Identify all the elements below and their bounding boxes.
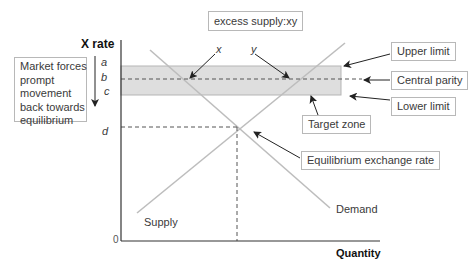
y-axis-label: X rate	[81, 38, 114, 50]
equilibrium-arrow	[254, 132, 300, 158]
note-line: equilibrium	[20, 114, 81, 128]
lower-limit-arrow	[350, 96, 390, 100]
target-zone-box: Target zone	[302, 115, 371, 134]
upper-limit-arrow	[344, 54, 390, 66]
central-parity-box: Central parity	[391, 71, 468, 90]
supply-label: Supply	[144, 217, 178, 228]
marker-b: b	[101, 72, 107, 83]
marker-c: c	[104, 86, 110, 97]
note-line: back towards	[20, 101, 81, 115]
note-line: movement	[20, 87, 81, 101]
upper-limit-box: Upper limit	[391, 42, 456, 61]
target-zone-arrow	[311, 96, 318, 115]
marker-d: d	[102, 126, 108, 137]
demand-label: Demand	[336, 204, 378, 215]
market-forces-note: Market forces prompt movement back towar…	[14, 57, 87, 122]
note-line: Market forces	[20, 60, 81, 74]
note-line: prompt	[20, 74, 81, 88]
origin-label: 0	[113, 235, 119, 245]
point-x-label: x	[216, 44, 222, 55]
diagram-canvas	[0, 0, 472, 265]
point-y-label: y	[251, 44, 257, 55]
lower-limit-box: Lower limit	[391, 97, 456, 116]
excess-supply-box: excess supply:xy	[208, 11, 303, 31]
equilibrium-box: Equilibrium exchange rate	[301, 151, 440, 170]
x-axis-label: Quantity	[336, 248, 381, 259]
target-zone-band	[121, 66, 341, 95]
marker-a: a	[101, 57, 107, 68]
